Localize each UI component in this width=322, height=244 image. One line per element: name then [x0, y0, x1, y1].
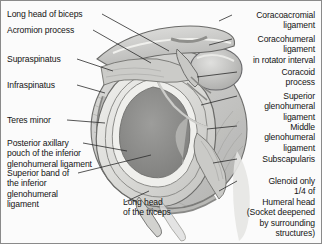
glenoid-fossa	[112, 79, 197, 187]
anatomy-figure: Long head of biceps Acromion process Sup…	[0, 0, 322, 244]
label-coracoid-process: Coracoid process	[205, 67, 315, 88]
label-coracohumeral-ligament: Coracohumeral ligament in rotator interv…	[203, 34, 315, 65]
label-posterior-axillary-pouch: Posterior axillary pouch of the inferior…	[7, 138, 92, 169]
label-superior-band-inferior-ghl: Superior band of the inferior glenohumer…	[7, 168, 69, 210]
label-teres-minor: Teres minor	[7, 115, 51, 125]
label-middle-glenohumeral-ligament: Middle glenohumeral ligament	[205, 122, 315, 153]
label-coracoacromial-ligament: Coracoacromial ligament	[205, 10, 315, 31]
label-acromion-process: Acromion process	[7, 25, 74, 35]
label-supraspinatus: Supraspinatus	[7, 54, 61, 64]
label-glenoid-note: Glenoid only 1/4 of Humeral head (Socket…	[203, 176, 315, 238]
label-long-head-of-the-triceps: Long head of the triceps	[123, 197, 171, 218]
label-long-head-of-biceps: Long head of biceps	[7, 9, 83, 19]
label-subscapularis: Subscapularis	[205, 154, 315, 164]
label-superior-glenohumeral-ligament: Superior glenohumeral ligament	[205, 91, 315, 122]
label-infraspinatus: Infraspinatus	[7, 80, 55, 90]
